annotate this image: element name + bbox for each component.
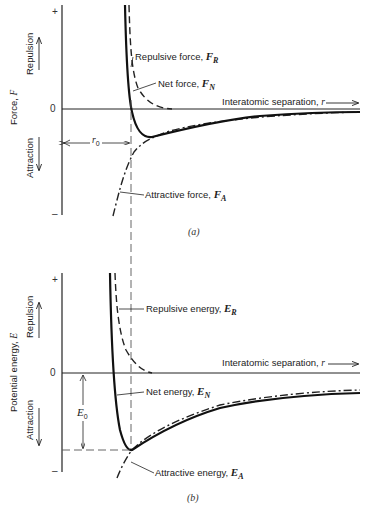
panel-b-tick-plus: + — [52, 274, 58, 285]
repulsive-energy-label: Repulsive energy, ER — [146, 302, 237, 317]
panel-b-y-axis-label: Potential energy, E — [8, 333, 19, 412]
repulsive-energy-curve — [115, 273, 152, 373]
r0-label: r0 — [90, 134, 102, 147]
repulsive-force-label: Repulsive force, FR — [135, 50, 218, 65]
panel-a-x-axis-label: Interatomic separation, r — [222, 96, 325, 107]
e0-label: E0 — [76, 405, 89, 421]
panel-b-x-axis-label: Interatomic separation, r — [222, 357, 325, 368]
panel-a-attraction-label: Attraction — [24, 138, 35, 178]
panel-a-tick-plus: + — [52, 6, 58, 17]
net-force-label: Net force, FN — [158, 77, 215, 92]
panel-a-repulsion-label: Repulsion — [24, 33, 35, 75]
panel-a-tick-zero: 0 — [50, 103, 56, 114]
panel-b-caption: (b) — [187, 492, 199, 503]
panel-b-tick-minus: – — [52, 465, 58, 476]
panel-a-plot — [39, 5, 360, 216]
attractive-force-label: Attractive force, FA — [145, 188, 226, 203]
net-energy-label: Net energy, EN — [146, 385, 210, 400]
net-force-curve — [125, 5, 360, 137]
panel-a-caption: (a) — [188, 226, 200, 237]
panel-b-repulsion-label: Repulsion — [24, 296, 35, 338]
panel-a-y-axis-label: Force, F — [8, 90, 19, 125]
attractive-energy-label: Attractive energy, EA — [155, 466, 244, 481]
panel-b-attraction-label: Attraction — [24, 400, 35, 440]
panel-a-tick-minus: – — [52, 208, 58, 219]
panel-b-tick-zero: 0 — [50, 367, 56, 378]
